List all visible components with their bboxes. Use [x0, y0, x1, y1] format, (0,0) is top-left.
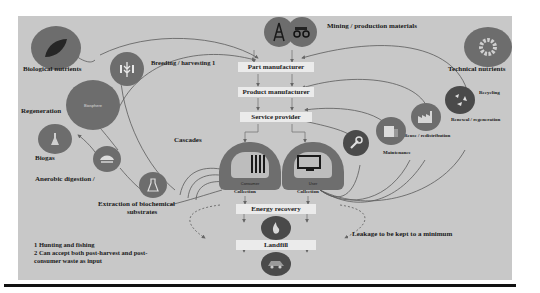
biological-nutrients-label: Biological nutrients [23, 65, 82, 73]
store-icon [376, 117, 406, 145]
product-manufacturer-box: Product manufacturer [238, 87, 314, 97]
maintenance-label: Maintenance [383, 150, 411, 156]
part-manufacturer-box: Part manufacturer [238, 62, 314, 72]
breeding-label: Breeding / harvesting 1 [151, 59, 215, 67]
footnote-2: 2 Can accept both post-harvest and post- [34, 249, 147, 257]
landfill-box: Landfill [236, 240, 316, 250]
energy-recovery-box: Energy recovery [236, 204, 316, 214]
leaf-icon [31, 26, 81, 70]
factory-icon [411, 103, 441, 131]
biosphere-text: Biosphere [84, 103, 102, 108]
biogas-label: Biogas [35, 154, 55, 162]
footnote-1: 1 Hunting and fishing [34, 241, 147, 249]
wrench-icon [343, 130, 369, 156]
mining-truck-icon [287, 17, 317, 47]
footnotes: 1 Hunting and fishing 2 Can accept both … [34, 241, 147, 265]
recycling-label: Recycling [479, 90, 500, 96]
consumer-collection-label: Collection [234, 189, 256, 195]
user-monitor-icon [294, 152, 332, 178]
consumer-icon [231, 152, 269, 178]
bottom-rule [4, 284, 516, 287]
service-provider-box: Service provider [240, 112, 312, 122]
biogas-flask-icon [38, 124, 72, 154]
landfill-truck-icon [261, 252, 291, 276]
lab-flask-icon [139, 172, 167, 198]
mining-label: Mining / production materials [327, 22, 417, 30]
digester-icon [93, 146, 121, 172]
renewal-label: Renewal / regeneration [451, 117, 500, 123]
consumer-label: Consumer [219, 181, 281, 186]
extraction-label-2: substrates [127, 208, 157, 216]
reuse-label: Reuse / redistribution [404, 133, 450, 139]
biosphere-icon: Biosphere [66, 80, 120, 130]
wheat-icon [110, 52, 144, 86]
recycling-icon [445, 86, 475, 114]
gear-icon [464, 27, 512, 67]
cascades-label: Cascades [174, 136, 202, 144]
extraction-label-1: Extraction of biochemical [98, 200, 175, 208]
leakage-label: Leakage to be kept to a minimum [352, 230, 452, 238]
footnote-2-cont: consumer waste as input [34, 257, 147, 265]
regeneration-label: Regeneration [21, 107, 61, 115]
user-collection-label: Collection [297, 189, 319, 195]
anaerobic-digestion-label: Anerobic digestion / [35, 175, 95, 183]
user-label: User [282, 181, 344, 186]
flame-icon [261, 216, 291, 240]
technical-nutrients-label: Technical nutrients [448, 65, 506, 73]
